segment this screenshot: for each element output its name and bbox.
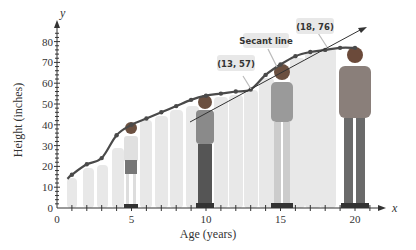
growth-chart: 01020304050607080 05101520 y x Age (year… [0, 0, 416, 250]
curve-point [174, 104, 178, 108]
y-tick-label: 60 [42, 77, 54, 89]
y-axis [54, 20, 60, 208]
curve-point [263, 73, 267, 77]
curve-point [114, 133, 118, 137]
curve-point [100, 156, 104, 160]
x-tick-label: 10 [201, 213, 213, 225]
y-axis-variable: y [59, 6, 66, 20]
callout-label-18: (18, 76) [296, 22, 334, 32]
y-axis-arrow-icon [54, 20, 60, 28]
x-tick-label: 5 [129, 213, 135, 225]
secant-arrow-icon [358, 27, 367, 33]
y-tick-label: 40 [42, 119, 54, 131]
curve-point [308, 50, 312, 54]
curve-point [204, 93, 208, 97]
curve-point [234, 89, 238, 93]
curve-point [159, 110, 163, 114]
curve-point [353, 46, 357, 50]
curve-point [70, 173, 74, 177]
curve-point [144, 116, 148, 120]
figure-age-5 [124, 122, 138, 208]
x-axis-variable: x [391, 201, 398, 215]
callout-label-13: (13, 57) [217, 59, 255, 69]
y-tick-label: 20 [42, 160, 54, 172]
callout-18-76: (18, 76) [296, 18, 334, 47]
x-axis-title: Age (years) [180, 227, 236, 241]
callout-13-57: (13, 57) [217, 55, 255, 89]
x-tick-label: 15 [275, 213, 287, 225]
y-tick-label: 0 [48, 202, 54, 214]
curve-point [189, 98, 193, 102]
curve-point [338, 46, 342, 50]
curve-point [219, 91, 223, 95]
figure-age-20 [339, 47, 371, 208]
callout-label-secant: Secant line [239, 36, 293, 46]
y-tick-label: 10 [42, 181, 54, 193]
x-tick-label: 0 [54, 213, 60, 225]
y-tick-label: 70 [42, 56, 54, 68]
curve-point [278, 62, 282, 66]
y-axis-title: Height (inches) [11, 83, 25, 157]
figure-age-15 [271, 64, 293, 208]
curve-point [85, 162, 89, 166]
figure-age-10 [196, 95, 214, 208]
x-axis-arrow-icon [378, 205, 386, 211]
y-tick-label: 50 [42, 98, 54, 110]
x-tick-label: 20 [350, 213, 362, 225]
curve-point [293, 54, 297, 58]
y-tick-label: 30 [42, 140, 54, 152]
y-tick-label: 80 [42, 36, 54, 48]
curve-point [129, 123, 133, 127]
